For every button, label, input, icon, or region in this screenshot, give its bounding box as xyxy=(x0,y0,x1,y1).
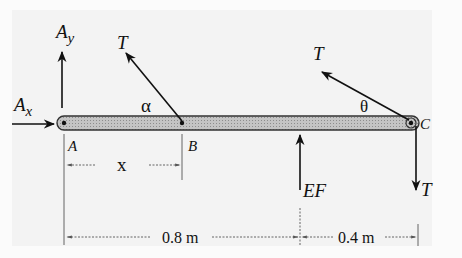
free-body-diagram: Ax Ay T α T θ T EF A B C x 0.8 m xyxy=(0,0,462,258)
pin-c xyxy=(409,121,413,125)
pin-a xyxy=(62,121,66,125)
diagram-canvas: Ax Ay T α T θ T EF A B C x 0.8 m xyxy=(0,0,462,258)
point-c-label: C xyxy=(420,116,431,132)
pin-b xyxy=(180,121,184,125)
dim-08-label: 0.8 m xyxy=(162,229,199,246)
dim-04-label: 0.4 m xyxy=(338,229,375,246)
force-t-at-c-angled-label: T xyxy=(313,43,325,64)
bar-abc xyxy=(57,116,419,130)
force-t-at-c-down-label: T xyxy=(421,179,433,200)
force-ef-label: EF xyxy=(302,180,327,201)
angle-alpha-label: α xyxy=(141,95,151,116)
angle-theta-label: θ xyxy=(360,97,368,116)
force-t-at-b-label: T xyxy=(117,32,129,53)
point-b-label: B xyxy=(188,138,197,154)
point-a-label: A xyxy=(67,138,78,154)
dim-x-label: x xyxy=(117,154,127,175)
